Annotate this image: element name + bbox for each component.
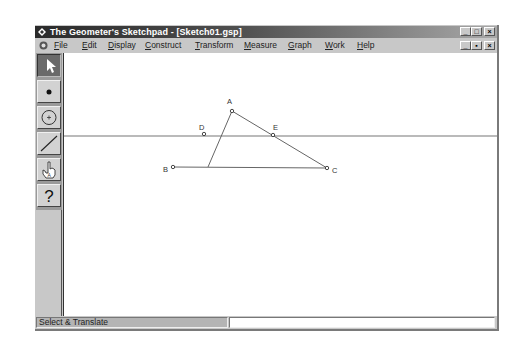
segment-bc[interactable] <box>173 167 327 168</box>
point-d[interactable] <box>202 132 205 135</box>
toolbox-background <box>36 210 62 316</box>
minimize-button[interactable]: _ <box>460 27 471 36</box>
status-bar: Select & Translate <box>35 316 497 329</box>
close-button[interactable]: × <box>484 27 495 36</box>
menu-work[interactable]: Work <box>325 39 345 52</box>
label-d[interactable]: D <box>199 124 204 132</box>
tool-straightedge[interactable] <box>37 132 61 155</box>
status-message-area <box>229 317 495 328</box>
menu-bar: File Edit Display Construct Transform Me… <box>35 39 497 52</box>
doc-minimize-button[interactable]: _ <box>460 41 471 50</box>
label-a[interactable]: A <box>227 98 232 106</box>
tool-point[interactable] <box>37 80 61 103</box>
point-icon <box>38 81 60 102</box>
question-icon: ? <box>38 185 60 206</box>
point-c[interactable] <box>325 166 328 169</box>
maximize-button[interactable]: □ <box>471 27 482 36</box>
segment-ac[interactable] <box>232 111 327 168</box>
app-icon <box>38 28 46 36</box>
menu-display[interactable]: Display <box>108 39 136 52</box>
label-c[interactable]: C <box>332 167 337 175</box>
svg-text:?: ? <box>44 187 53 206</box>
tool-text[interactable]: A <box>37 158 61 181</box>
arrow-icon <box>38 55 60 76</box>
point-e[interactable] <box>271 133 274 136</box>
toolbox: A ? <box>36 53 62 210</box>
menu-construct[interactable]: Construct <box>145 39 181 52</box>
menu-edit[interactable]: Edit <box>82 39 97 52</box>
sketchpad-window: The Geometer's Sketchpad - [Sketch01.gsp… <box>35 25 499 331</box>
menu-file[interactable]: File <box>54 39 68 52</box>
doc-close-button[interactable]: × <box>484 41 495 50</box>
segment-ab[interactable] <box>208 111 232 167</box>
hand-icon: A <box>38 159 60 180</box>
sketch-canvas[interactable]: A D E B C <box>63 53 497 316</box>
menu-help[interactable]: Help <box>357 39 374 52</box>
window-title: The Geometer's Sketchpad - [Sketch01.gsp… <box>50 26 242 38</box>
menu-transform[interactable]: Transform <box>195 39 233 52</box>
point-b[interactable] <box>171 165 174 168</box>
label-b[interactable]: B <box>163 166 168 174</box>
menu-measure[interactable]: Measure <box>244 39 277 52</box>
title-bar[interactable]: The Geometer's Sketchpad - [Sketch01.gsp… <box>35 26 497 38</box>
circle-icon <box>38 107 60 128</box>
tool-compass[interactable] <box>37 106 61 129</box>
menu-graph[interactable]: Graph <box>288 39 312 52</box>
point-a[interactable] <box>230 109 233 112</box>
tool-object-info[interactable]: ? <box>37 184 61 207</box>
status-mode: Select & Translate <box>36 317 228 328</box>
segment-icon <box>38 133 60 154</box>
tool-selection-arrow[interactable] <box>37 54 61 77</box>
label-e[interactable]: E <box>273 124 278 132</box>
doc-restore-button[interactable]: ▪ <box>471 41 482 50</box>
document-icon[interactable] <box>39 41 48 50</box>
sketch-drawing <box>64 53 497 316</box>
